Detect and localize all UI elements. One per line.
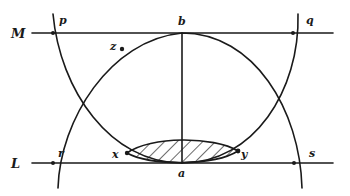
upper-arc-through-b	[58, 33, 302, 188]
point-y-dot	[236, 149, 241, 154]
label-z: z	[109, 40, 117, 53]
point-q-dot	[291, 31, 295, 35]
label-p: p	[59, 14, 67, 27]
point-x-dot	[125, 151, 129, 155]
label-q: q	[306, 14, 314, 27]
label-y: y	[240, 148, 249, 161]
label-a: a	[178, 167, 185, 180]
point-s-dot	[292, 161, 296, 165]
geometry-diagram: M L p b q z r x y a s	[0, 0, 350, 196]
label-s: s	[309, 147, 315, 160]
point-p-dot	[51, 31, 55, 35]
point-z-dot	[120, 47, 124, 51]
label-x: x	[111, 148, 119, 161]
label-b: b	[178, 15, 186, 28]
label-L: L	[10, 156, 20, 171]
point-r-dot	[51, 161, 55, 165]
label-M: M	[10, 26, 26, 41]
